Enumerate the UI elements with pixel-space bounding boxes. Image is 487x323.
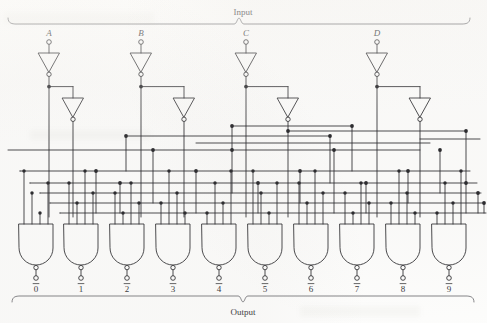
label-layer: ABCD0123456789InputOutput [33,7,453,317]
junction-dot [305,201,309,205]
input-brace-label: Input [234,7,253,17]
junction-dot [286,129,290,133]
inverter-output-bubble [286,117,290,121]
input-label-d: D [373,28,381,38]
output-label-5: 5 [263,284,268,294]
input-brace [8,18,470,24]
output-terminal-1 [79,276,84,281]
input-label-b: B [138,28,144,38]
junction-dot [47,85,51,89]
output-terminal-4 [217,276,222,281]
junction-dot [464,129,468,133]
junction-dot [230,148,234,152]
input-label-a: A [45,28,52,38]
nand-gate-0 [19,224,53,265]
junction-dot [375,85,379,89]
output-brace [12,296,474,302]
inverter-buffer-d [410,98,431,117]
junction-dot [22,169,26,173]
junction-dot [313,169,317,173]
junction-dot [91,191,95,195]
inverter-primary-d [367,53,388,72]
nand-gate-8 [386,224,420,265]
inverter-primary-b [131,53,152,72]
nand-output-bubble [171,265,175,269]
output-terminal-0 [34,276,39,281]
junction-dot [194,169,198,173]
output-label-8: 8 [401,284,406,294]
output-terminal-8 [401,276,406,281]
junction-dot [297,181,301,185]
junction-dot [443,181,447,185]
junction-dot [256,181,260,185]
junction-dot [267,211,271,215]
logic-diagram-figure: ABCD0123456789InputOutput [0,0,487,323]
brace-layer [8,18,474,302]
junction-dot [94,169,98,173]
junction-dot [459,169,463,173]
gate-layer [19,40,466,281]
nand-gate-4 [202,224,236,265]
junction-dot [298,169,302,173]
circuit-canvas: ABCD0123456789InputOutput [0,0,487,323]
junction-dot [351,211,355,215]
junction-dot [350,124,354,128]
nand-gate-1 [64,224,98,265]
output-terminal-3 [171,276,176,281]
inverter-output-bubble [375,72,379,76]
input-label-c: C [243,28,250,38]
nand-output-bubble [79,265,83,269]
junction-dot [139,85,143,89]
nand-output-bubble [355,265,359,269]
output-label-3: 3 [171,284,176,294]
inverter-output-bubble [182,117,186,121]
nand-gate-9 [432,224,466,265]
junction-dot [213,181,217,185]
inverter-output-bubble [47,72,51,76]
nand-gate-5 [248,224,282,265]
inverter-primary-a [39,53,60,72]
junction-dot [121,211,125,215]
nand-gate-6 [294,224,328,265]
output-brace-label: Output [230,307,256,317]
nand-output-bubble [34,265,38,269]
output-label-2: 2 [125,284,130,294]
nand-output-bubble [217,265,221,269]
junction-dot [343,191,347,195]
junction-dot [151,148,155,152]
inverter-output-bubble [418,117,422,121]
inverter-output-bubble [244,72,248,76]
junction-dot [438,148,442,152]
input-terminal-a [47,40,52,45]
output-label-6: 6 [309,284,314,294]
junction-dot [83,169,87,173]
nand-output-bubble [309,265,313,269]
junction-dot [275,181,279,185]
junction-dot [464,181,468,185]
junction-dot [230,124,234,128]
junction-dot [38,211,42,215]
output-terminal-5 [263,276,268,281]
junction-dot [251,169,255,173]
junction-dot [332,148,336,152]
input-terminal-d [375,40,380,45]
inverter-primary-c [236,53,257,72]
junction-dot [30,191,34,195]
junction-dot [205,211,209,215]
junction-dot [67,181,71,185]
output-label-0: 0 [34,284,39,294]
inverter-output-bubble [71,117,75,121]
junction-dot [259,191,263,195]
junction-dot [405,191,409,195]
junction-dot [321,191,325,195]
junction-dot [167,169,171,173]
junction-dot [221,201,225,205]
junction-dot [129,181,133,185]
junction-dot [397,169,401,173]
wire-layer [8,44,486,275]
junction-dot [476,191,480,195]
junction-dot [137,201,141,205]
input-terminal-c [244,40,249,45]
output-label-1: 1 [79,284,84,294]
nand-output-bubble [447,265,451,269]
